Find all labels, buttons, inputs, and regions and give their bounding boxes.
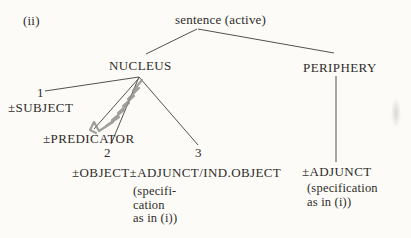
branch-index-1: 1 xyxy=(37,86,44,99)
periphery-node: PERIPHERY xyxy=(303,61,377,74)
object-adjunct-node: ±OBJECT±ADJUNCT/IND.OBJECT xyxy=(72,166,281,179)
subject-node: ±SUBJECT xyxy=(8,101,73,114)
adjunct-node: ±ADJUNCT xyxy=(302,165,372,178)
edge-nucleus-predicator xyxy=(94,78,139,129)
edge-nucleus-subject xyxy=(45,77,139,91)
branch-index-3: 3 xyxy=(195,146,202,159)
item-number-label: (ii) xyxy=(23,14,40,27)
nucleus-node: NUCLEUS xyxy=(109,59,172,72)
branch-index-2: 2 xyxy=(104,146,111,159)
edge-sentence-periphery xyxy=(198,29,334,53)
root-node-sentence: sentence (active) xyxy=(175,13,266,26)
scanned-tree-diagram-page: (ii) sentence (active) NUCLEUS PERIPHERY… xyxy=(0,0,411,238)
edge-nucleus-adjunct xyxy=(139,77,198,145)
specification-note-right: (specification as in (i)) xyxy=(307,181,378,209)
predicator-node: ±PREDICATOR xyxy=(43,132,134,145)
edge-sentence-nucleus xyxy=(146,29,197,54)
specification-note-left: (specifi- cation as in (i)) xyxy=(133,185,177,226)
